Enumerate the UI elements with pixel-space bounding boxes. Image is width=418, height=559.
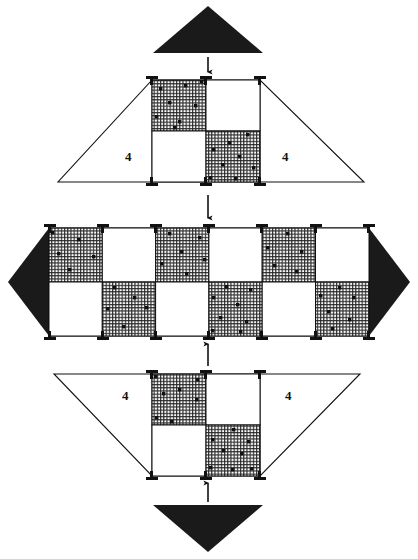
module-tile-hatched xyxy=(49,228,102,282)
solid-arrow-right-icon xyxy=(369,228,410,336)
module-tile-hatched xyxy=(316,282,370,336)
module-tile-white xyxy=(152,425,206,476)
module-tile-white xyxy=(152,131,206,182)
module-tile-hatched xyxy=(156,228,209,282)
diagram-canvas: 4 4 4 4 Checkerboard modular plan diagra… xyxy=(0,0,418,559)
quantity-label-top-right: 4 xyxy=(282,150,289,163)
module-tile-white xyxy=(156,282,209,336)
module-tile-hatched xyxy=(102,282,155,336)
quantity-label-bottom-left: 4 xyxy=(122,389,129,402)
upper-trapezoid-plan xyxy=(58,76,364,186)
solid-arrow-left-icon xyxy=(8,228,49,336)
module-tile-white xyxy=(102,228,155,282)
solid-triangle-up-icon xyxy=(153,6,263,53)
module-tile-hatched xyxy=(262,228,315,282)
module-tile-white xyxy=(316,228,370,282)
module-tile-white xyxy=(262,282,315,336)
module-tile-white xyxy=(206,80,260,131)
diagram-vector-layer xyxy=(0,0,418,559)
module-tile-hatched xyxy=(209,282,262,336)
module-tile-white xyxy=(49,282,102,336)
quantity-label-top-left: 4 xyxy=(125,150,132,163)
module-tile-hatched xyxy=(206,425,260,476)
central-checkerboard-band xyxy=(8,224,410,340)
module-tile-white xyxy=(206,374,260,425)
lower-trapezoid-plan xyxy=(54,370,360,480)
solid-triangle-down-icon xyxy=(153,505,263,552)
quantity-label-bottom-right: 4 xyxy=(285,389,292,402)
module-tile-white xyxy=(209,228,262,282)
module-tile-hatched xyxy=(206,131,260,182)
module-tile-hatched xyxy=(152,80,206,131)
module-tile-hatched xyxy=(152,374,206,425)
